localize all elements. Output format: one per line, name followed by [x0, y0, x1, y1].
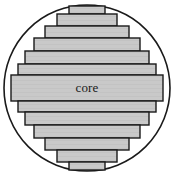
band	[25, 112, 149, 125]
band-group	[11, 6, 163, 170]
circle-band-diagram	[0, 0, 174, 176]
band	[69, 162, 105, 170]
band	[57, 150, 117, 162]
band	[25, 51, 149, 64]
band	[45, 138, 129, 150]
band	[34, 125, 140, 138]
band	[69, 6, 105, 14]
band	[45, 26, 129, 38]
band	[18, 101, 156, 112]
band	[57, 14, 117, 26]
figure-canvas: core	[0, 0, 174, 176]
band	[34, 38, 140, 51]
band	[18, 64, 156, 75]
core-band	[11, 75, 163, 101]
